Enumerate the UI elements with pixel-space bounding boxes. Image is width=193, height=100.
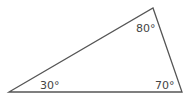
triangle-diagram: 80° 30° 70° (0, 0, 193, 100)
angle-label-bottom-right: 70° (155, 79, 175, 92)
angle-label-top: 80° (136, 22, 156, 35)
angle-label-bottom-left: 30° (40, 79, 60, 92)
